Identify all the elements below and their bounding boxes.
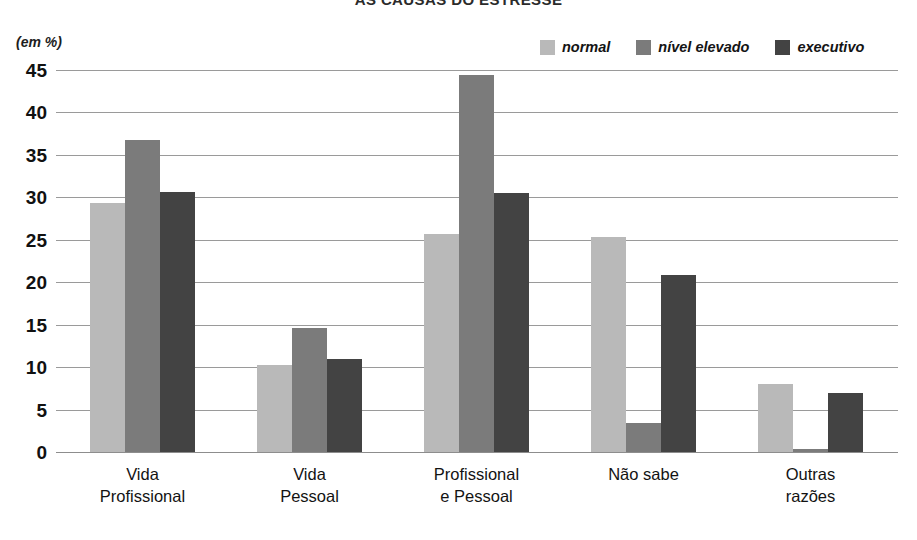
y-axis-tick-label: 10: [26, 358, 47, 377]
y-axis-tick-label: 45: [26, 61, 47, 80]
bar[interactable]: [90, 203, 125, 452]
x-axis-category-label: Vida Profissional: [53, 464, 233, 508]
bar[interactable]: [160, 192, 195, 452]
chart-legend: normalnível elevadoexecutivo: [540, 39, 864, 55]
legend-item-normal[interactable]: normal: [540, 39, 610, 55]
x-axis-category-label: Profissional e Pessoal: [387, 464, 567, 508]
legend-label: normal: [562, 39, 610, 55]
gridline-0: [56, 452, 898, 453]
y-axis-tick-label: 20: [26, 273, 47, 292]
bar[interactable]: [626, 423, 661, 452]
y-axis-unit-label: (em %): [16, 34, 62, 50]
bar[interactable]: [424, 234, 459, 452]
y-axis-tick-label: 15: [26, 315, 47, 334]
chart-title: AS CAUSAS DO ESTRESSE: [0, 0, 917, 8]
bar[interactable]: [459, 75, 494, 452]
y-axis-tick-label: 30: [26, 188, 47, 207]
x-axis-category-label: Não sabe: [554, 464, 734, 486]
gridline-45: [56, 70, 898, 71]
bar[interactable]: [591, 237, 626, 452]
x-axis-category-label: Vida Pessoal: [220, 464, 400, 508]
y-axis-tick-label: 25: [26, 230, 47, 249]
bar[interactable]: [327, 359, 362, 452]
y-axis-tick-label: 40: [26, 103, 47, 122]
bar[interactable]: [125, 140, 160, 452]
plot-area: 051015202530354045: [56, 70, 898, 452]
legend-swatch-icon: [775, 40, 790, 55]
bar[interactable]: [292, 328, 327, 452]
legend-item-nível-elevado[interactable]: nível elevado: [636, 39, 749, 55]
bar[interactable]: [828, 393, 863, 452]
y-axis-tick-label: 5: [36, 400, 47, 419]
legend-swatch-icon: [636, 40, 651, 55]
bar[interactable]: [257, 365, 292, 452]
bar[interactable]: [494, 193, 529, 452]
legend-label: nível elevado: [658, 39, 749, 55]
legend-label: executivo: [797, 39, 864, 55]
y-axis-tick-label: 35: [26, 145, 47, 164]
legend-item-executivo[interactable]: executivo: [775, 39, 864, 55]
bar[interactable]: [793, 449, 828, 452]
legend-swatch-icon: [540, 40, 555, 55]
x-axis-category-label: Outras razões: [721, 464, 901, 508]
bar[interactable]: [758, 384, 793, 452]
bar[interactable]: [661, 275, 696, 452]
y-axis-tick-label: 0: [36, 443, 47, 462]
